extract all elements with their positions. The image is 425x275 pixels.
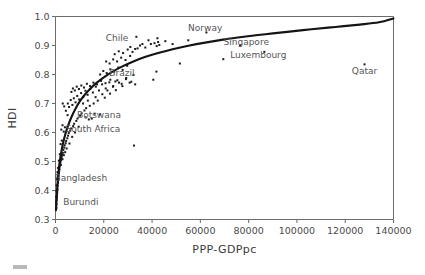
data-point bbox=[63, 105, 65, 107]
x-axis-tick-labels: 020000400006000080000100000120000140000 bbox=[52, 225, 411, 236]
data-point bbox=[65, 140, 67, 142]
data-point bbox=[109, 62, 111, 64]
data-point bbox=[101, 93, 103, 95]
data-point bbox=[75, 101, 77, 103]
y-tick-label: 0.7 bbox=[34, 98, 49, 109]
data-point bbox=[115, 89, 117, 91]
data-point bbox=[66, 147, 68, 149]
y-axis-tick-labels: 0.30.40.50.60.70.80.91.0 bbox=[34, 11, 49, 225]
data-point bbox=[105, 60, 107, 62]
data-point bbox=[106, 89, 108, 91]
data-point bbox=[121, 83, 123, 85]
chart-canvas: 0.30.40.50.60.70.80.91.0 020000400006000… bbox=[0, 0, 425, 275]
x-tick-label: 100000 bbox=[279, 225, 315, 236]
data-point bbox=[84, 90, 86, 92]
data-point bbox=[222, 58, 224, 60]
data-point bbox=[129, 46, 131, 48]
data-point bbox=[134, 83, 136, 85]
data-point bbox=[156, 45, 158, 47]
data-point bbox=[86, 83, 88, 85]
data-point bbox=[109, 79, 111, 81]
scan-artifact-bar bbox=[13, 265, 27, 269]
y-tick-label: 0.4 bbox=[34, 185, 49, 196]
annotation-label: Norway bbox=[188, 23, 223, 33]
data-point bbox=[132, 51, 134, 53]
data-point bbox=[122, 52, 124, 54]
data-point bbox=[135, 36, 137, 38]
data-point bbox=[70, 99, 72, 101]
data-point bbox=[137, 47, 139, 49]
data-point bbox=[87, 94, 89, 96]
data-point bbox=[62, 103, 64, 105]
data-point bbox=[150, 43, 152, 45]
data-point bbox=[139, 45, 141, 47]
data-point bbox=[78, 88, 80, 90]
x-axis-title: PPP-GDPpc bbox=[192, 243, 256, 256]
data-point bbox=[144, 47, 146, 49]
data-point bbox=[62, 124, 64, 126]
data-point bbox=[118, 50, 120, 52]
y-tick-label: 0.9 bbox=[34, 40, 49, 51]
data-point bbox=[92, 82, 94, 84]
data-point bbox=[65, 110, 67, 112]
data-point bbox=[114, 80, 116, 82]
data-point bbox=[112, 58, 114, 60]
data-point bbox=[73, 97, 75, 99]
data-point bbox=[187, 39, 189, 41]
data-point bbox=[67, 103, 69, 105]
data-point bbox=[71, 104, 73, 106]
data-point bbox=[95, 96, 97, 98]
annotation-label: Luxembourg bbox=[230, 50, 286, 60]
data-point bbox=[64, 144, 66, 146]
data-point bbox=[121, 85, 123, 87]
annotation-label: South Africa bbox=[66, 124, 121, 134]
data-point bbox=[116, 60, 118, 62]
data-point bbox=[158, 44, 160, 46]
data-point bbox=[147, 39, 149, 41]
data-point bbox=[64, 151, 66, 153]
data-point bbox=[155, 71, 157, 73]
data-point bbox=[63, 147, 65, 149]
data-point bbox=[63, 131, 65, 133]
data-point bbox=[112, 85, 114, 87]
data-point bbox=[99, 74, 101, 76]
data-point bbox=[164, 40, 166, 42]
x-tick-label: 140000 bbox=[375, 225, 411, 236]
annotation-label: Singapore bbox=[224, 37, 270, 47]
data-point bbox=[105, 87, 107, 89]
data-point bbox=[92, 91, 94, 93]
data-point bbox=[80, 92, 82, 94]
data-point bbox=[62, 158, 64, 160]
data-point bbox=[60, 143, 62, 145]
data-point bbox=[68, 106, 70, 108]
data-point bbox=[72, 87, 74, 89]
y-tick-label: 1.0 bbox=[34, 11, 49, 22]
data-point bbox=[74, 89, 76, 91]
data-point bbox=[60, 129, 62, 131]
data-point bbox=[97, 100, 99, 102]
data-point bbox=[133, 145, 135, 147]
data-point bbox=[134, 48, 136, 50]
data-point bbox=[71, 136, 73, 138]
y-tick-label: 0.6 bbox=[34, 127, 49, 138]
y-tick-label: 0.3 bbox=[34, 214, 49, 225]
data-point bbox=[82, 103, 84, 105]
data-point bbox=[125, 59, 127, 61]
data-point bbox=[116, 79, 118, 81]
data-point bbox=[118, 82, 120, 84]
data-point bbox=[89, 105, 91, 107]
data-point bbox=[63, 154, 65, 156]
data-point bbox=[152, 79, 154, 81]
data-point bbox=[93, 103, 95, 105]
data-point bbox=[172, 43, 174, 45]
data-point bbox=[101, 83, 103, 85]
x-tick-label: 120000 bbox=[327, 225, 363, 236]
x-tick-label: 20000 bbox=[89, 225, 119, 236]
data-point bbox=[108, 81, 110, 83]
x-tick-label: 40000 bbox=[137, 225, 167, 236]
data-point bbox=[70, 91, 72, 93]
data-point bbox=[179, 62, 181, 64]
data-point bbox=[76, 86, 78, 88]
annotation-label: Bangladesh bbox=[54, 173, 107, 183]
data-point bbox=[114, 53, 116, 55]
